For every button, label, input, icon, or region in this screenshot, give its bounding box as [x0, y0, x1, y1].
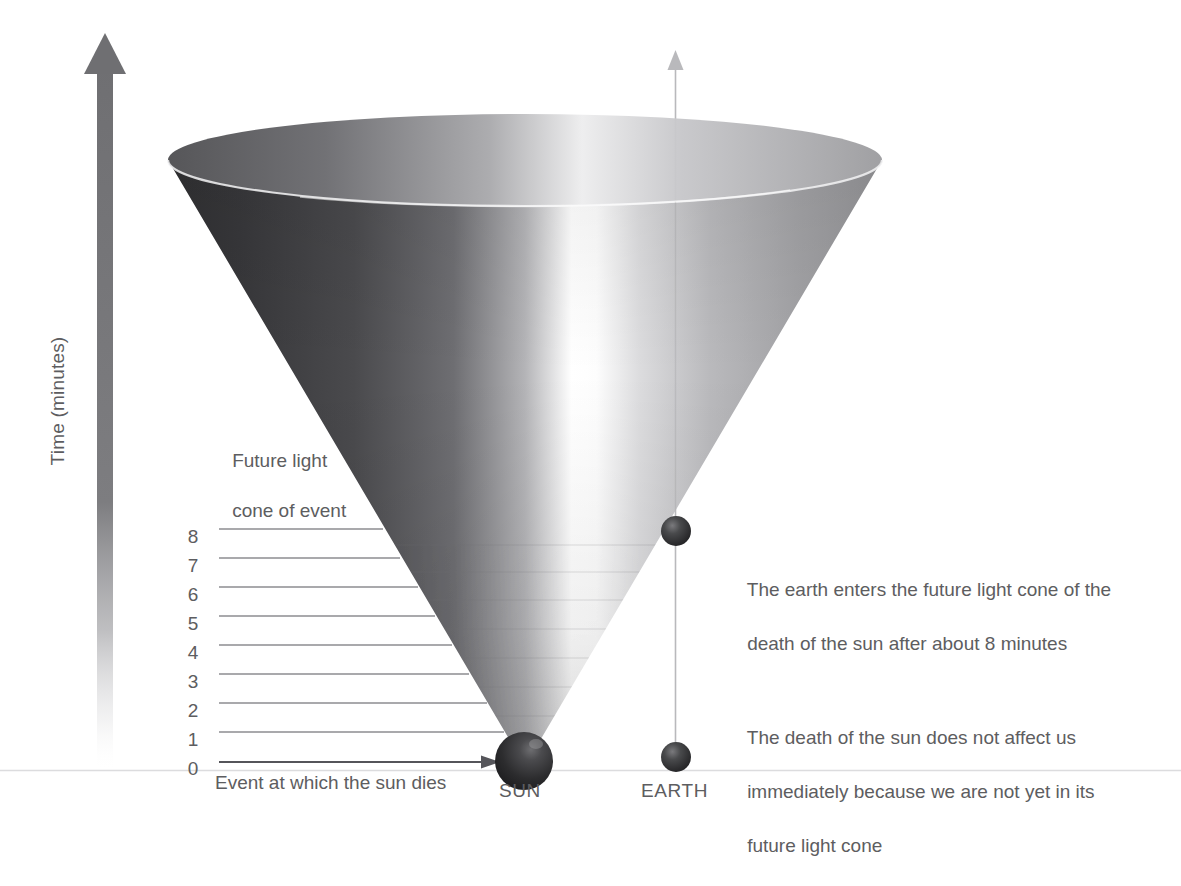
note-death-not-yet-felt: The death of the sun does not affect us … — [726, 697, 1095, 886]
event-arrow — [219, 756, 500, 769]
y-tick-label-6: 6 — [182, 584, 204, 606]
y-tick-label-7: 7 — [182, 555, 204, 577]
future-light-cone-label: Future light cone of event — [211, 423, 346, 548]
note-death-line3: future light cone — [747, 835, 882, 856]
note-death-line2: immediately because we are not yet in it… — [747, 781, 1094, 802]
y-axis-title: Time (minutes) — [47, 281, 69, 521]
time-axis-arrow — [84, 33, 126, 772]
note-earth-line2: death of the sun after about 8 minutes — [747, 633, 1067, 654]
y-tick-label-8: 8 — [182, 526, 204, 548]
y-tick-label-3: 3 — [182, 671, 204, 693]
y-tick-label-4: 4 — [182, 642, 204, 664]
note-earth-enters-cone: The earth enters the future light cone o… — [726, 549, 1111, 684]
note-death-line1: The death of the sun does not affect us — [747, 727, 1076, 748]
event-label: Event at which the sun dies — [215, 772, 446, 794]
y-tick-label-0: 0 — [182, 758, 204, 780]
earth-sphere-t0 — [661, 742, 691, 772]
y-tick-label-5: 5 — [182, 613, 204, 635]
earth-label: EARTH — [641, 780, 708, 802]
y-tick-label-2: 2 — [182, 700, 204, 722]
cone-label-line1: Future light — [232, 450, 327, 471]
y-tick-label-1: 1 — [182, 729, 204, 751]
cone-label-line2: cone of event — [232, 500, 346, 521]
lightcone-diagram: Time (minutes) Future light cone of even… — [0, 0, 1181, 886]
earth-sphere-t8 — [661, 516, 691, 546]
sun-highlight — [529, 739, 543, 749]
sun-label: SUN — [499, 780, 541, 802]
note-earth-line1: The earth enters the future light cone o… — [747, 579, 1111, 600]
